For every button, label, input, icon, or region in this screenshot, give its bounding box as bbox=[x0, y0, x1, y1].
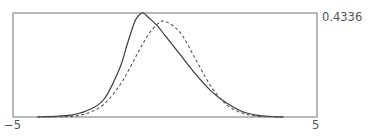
x-min-label: −5 bbox=[4, 120, 21, 132]
solid-density-curve bbox=[37, 13, 283, 117]
x-max-label: 5 bbox=[312, 120, 319, 132]
plot-frame bbox=[13, 13, 317, 117]
dashed-normal-curve bbox=[37, 21, 283, 117]
density-chart: 0.4336 −5 5 bbox=[0, 0, 368, 137]
plot-area bbox=[0, 0, 368, 137]
y-max-label: 0.4336 bbox=[322, 12, 362, 24]
